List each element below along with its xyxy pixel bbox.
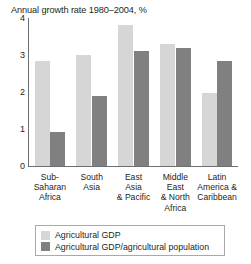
x-axis-category-line: Sub- — [29, 172, 71, 182]
y-axis-tick-label: 3 — [20, 51, 25, 60]
bar — [176, 48, 191, 166]
chart-legend: Agricultural GDPAgricultural GDP/agricul… — [35, 225, 225, 256]
x-axis-category-line: America & — [196, 182, 238, 192]
y-axis-tick-label: 2 — [20, 88, 25, 97]
x-axis-category-label: Sub-SaharanAfrica — [29, 172, 71, 203]
bar — [92, 96, 107, 166]
x-axis-line — [28, 166, 238, 167]
y-axis-tick-label: 0 — [20, 162, 25, 171]
bar — [202, 93, 217, 166]
chart-title: Annual growth rate 1980–2004, % — [11, 5, 147, 15]
bar — [118, 25, 133, 166]
bar — [35, 61, 50, 166]
legend-item: Agricultural GDP/agricultural population — [41, 242, 209, 252]
x-axis-category-line: Asia — [113, 182, 155, 192]
bar — [50, 132, 65, 166]
x-axis-category-line: East — [113, 172, 155, 182]
x-axis-category-line: Caribbean — [196, 192, 238, 202]
x-axis-category-line: Africa — [154, 203, 196, 213]
x-axis-category-line: Middle — [154, 172, 196, 182]
bar-group — [160, 18, 191, 166]
legend-item-label: Agricultural GDP — [55, 230, 121, 240]
x-axis-category-line: & North — [154, 192, 196, 202]
bar — [217, 61, 232, 166]
x-axis-category-line: East — [154, 182, 196, 192]
x-axis-category-line: Saharan — [29, 182, 71, 192]
bar-group — [202, 18, 233, 166]
bar — [160, 44, 175, 166]
plot-area: 01234 — [29, 18, 238, 166]
bar — [76, 55, 91, 166]
bar-group — [76, 18, 107, 166]
x-axis-category-line: Asia — [71, 182, 113, 192]
y-axis-tick-label: 4 — [20, 14, 25, 23]
legend-swatch-icon — [41, 242, 50, 251]
x-axis-category-label: SouthAsia — [71, 172, 113, 192]
x-axis-category-line: & Pacific — [113, 192, 155, 202]
x-axis-category-label: EastAsia& Pacific — [113, 172, 155, 203]
legend-item: Agricultural GDP — [41, 230, 121, 240]
legend-swatch-icon — [41, 231, 50, 240]
x-axis-category-label: LatinAmerica &Caribbean — [196, 172, 238, 203]
bar-group — [35, 18, 66, 166]
agricultural-growth-bar-chart: Annual growth rate 1980–2004, % 01234 Su… — [0, 0, 251, 264]
y-axis-tick-label: 1 — [20, 125, 25, 134]
bar — [134, 51, 149, 166]
x-axis-category-line: South — [71, 172, 113, 182]
x-axis-category-line: Africa — [29, 192, 71, 202]
x-axis-category-line: Latin — [196, 172, 238, 182]
bar-group — [118, 18, 149, 166]
legend-item-label: Agricultural GDP/agricultural population — [55, 242, 209, 252]
x-axis-category-label: MiddleEast& NorthAfrica — [154, 172, 196, 213]
